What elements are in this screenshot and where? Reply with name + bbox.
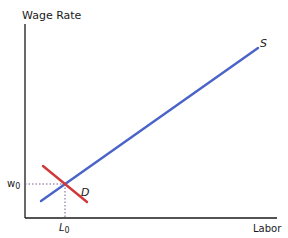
l0-sub: 0 <box>65 226 70 235</box>
chart: Wage Rate Labor S D w0 L0 <box>0 0 288 238</box>
w0-main: w <box>7 178 15 189</box>
demand-label: D <box>81 186 89 199</box>
l0-label: L0 <box>59 222 70 235</box>
supply-label: S <box>260 37 267 50</box>
supply-curve <box>41 48 258 201</box>
w0-sub: 0 <box>15 182 20 191</box>
x-axis-title: Labor <box>253 223 282 234</box>
w0-label: w0 <box>7 178 20 191</box>
y-axis-title: Wage Rate <box>22 9 82 22</box>
